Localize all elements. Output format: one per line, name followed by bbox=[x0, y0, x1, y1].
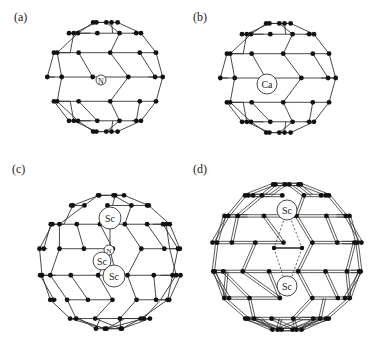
figure-canvas: N Ca Sc N Sc Sc Sc Sc bbox=[0, 0, 377, 337]
svg-text:Sc: Sc bbox=[109, 271, 120, 282]
svg-text:Sc: Sc bbox=[105, 213, 116, 224]
fullerene-cage-b bbox=[218, 21, 338, 135]
svg-text:Sc: Sc bbox=[282, 205, 293, 216]
svg-text:N: N bbox=[98, 77, 104, 86]
svg-text:Sc: Sc bbox=[282, 281, 293, 292]
svg-text:Sc: Sc bbox=[97, 256, 108, 267]
encapsulated-atom-ca: Ca bbox=[257, 74, 277, 94]
svg-text:Ca: Ca bbox=[261, 79, 273, 90]
encapsulated-atom-n: N bbox=[96, 75, 106, 86]
